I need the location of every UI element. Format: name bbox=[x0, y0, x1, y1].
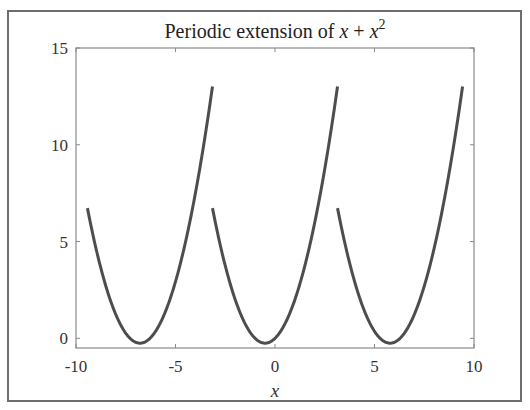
series-line-segment bbox=[212, 86, 337, 343]
chart-svg: Periodic extension of x + x2 -10-5051005… bbox=[0, 0, 530, 410]
series-line-segment bbox=[87, 86, 212, 343]
x-tick-label: 0 bbox=[271, 357, 280, 376]
y-tick-label: 10 bbox=[51, 136, 68, 155]
y-tick-label: 0 bbox=[60, 329, 69, 348]
data-series bbox=[87, 86, 462, 343]
plot-box bbox=[76, 48, 474, 348]
x-tick-label: 5 bbox=[370, 357, 379, 376]
y-tick-label: 15 bbox=[51, 39, 68, 58]
plot-axes: -10-50510051015 bbox=[51, 39, 483, 376]
x-axis-label: x bbox=[270, 380, 280, 401]
series-line-segment bbox=[338, 86, 463, 343]
chart-title: Periodic extension of x + x2 bbox=[164, 17, 385, 42]
x-tick-label: -5 bbox=[168, 357, 182, 376]
x-tick-label: 10 bbox=[466, 357, 483, 376]
x-tick-label: -10 bbox=[65, 357, 88, 376]
y-tick-label: 5 bbox=[60, 233, 69, 252]
